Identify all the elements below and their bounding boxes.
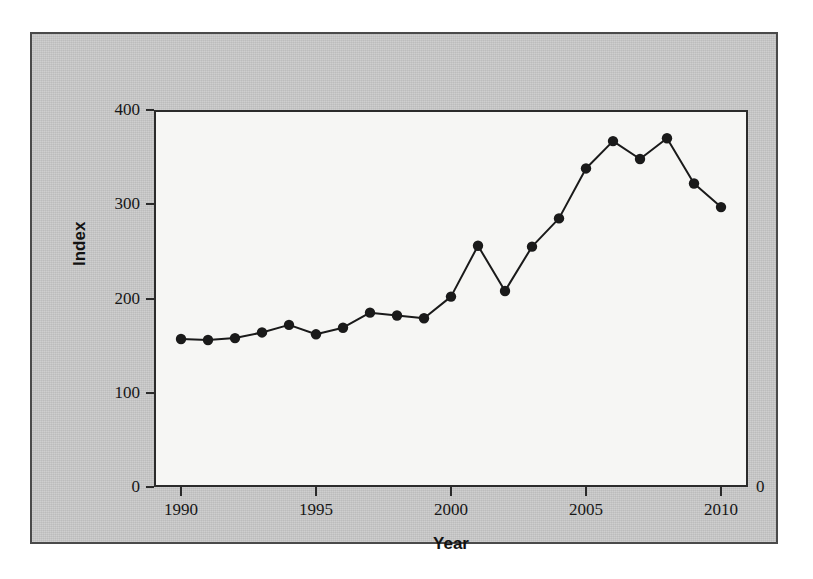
data-point-marker: 2009: 322 — [689, 178, 699, 188]
series-line — [181, 138, 721, 340]
x-tick-label: 1990 — [164, 500, 198, 520]
y-tick-label: 100 — [94, 383, 140, 403]
data-series-svg: 1990: 1571991: 1561992: 1581993: 1641994… — [156, 112, 746, 485]
x-tick-label: 2010 — [704, 500, 738, 520]
data-point-marker: 1990: 157 — [176, 334, 186, 344]
data-point-marker: 2006: 367 — [608, 136, 618, 146]
y-tick-label: 400 — [94, 100, 140, 120]
x-tick-label: 2005 — [569, 500, 603, 520]
data-point-marker: 1992: 158 — [230, 333, 240, 343]
data-point-marker: 2007: 348 — [635, 154, 645, 164]
y-tick-mark — [146, 203, 154, 205]
data-point-marker: 2000: 202 — [446, 291, 456, 301]
data-point-marker: 1997: 185 — [365, 307, 375, 317]
data-point-marker: 1998: 182 — [392, 310, 402, 320]
y-tick-mark — [146, 109, 154, 111]
x-tick-label: 1995 — [299, 500, 333, 520]
data-point-marker: 2003: 255 — [527, 241, 537, 251]
y-tick-mark — [146, 486, 154, 488]
y-tick-mark — [146, 298, 154, 300]
y-tick-mark — [146, 392, 154, 394]
x-tick-mark — [450, 487, 452, 496]
data-point-marker: 2008: 370 — [662, 133, 672, 143]
data-point-marker: 1994: 172 — [284, 320, 294, 330]
data-point-marker: 1995: 162 — [311, 329, 321, 339]
data-point-marker: 2002: 208 — [500, 286, 510, 296]
right-zero-label: 0 — [756, 477, 765, 497]
figure-canvas: Index 0100200300400 19901995200020052010… — [0, 0, 813, 579]
data-point-marker: 1999: 179 — [419, 313, 429, 323]
data-point-marker: 1996: 169 — [338, 323, 348, 333]
x-tick-label: 2000 — [434, 500, 468, 520]
y-tick-label: 200 — [94, 289, 140, 309]
x-tick-mark — [315, 487, 317, 496]
data-point-marker: 2001: 256 — [473, 241, 483, 251]
x-axis-title: Year — [154, 534, 748, 554]
x-tick-mark — [720, 487, 722, 496]
y-axis-title: Index — [70, 222, 90, 266]
x-tick-mark — [585, 487, 587, 496]
plot-area: 1990: 1571991: 1561992: 1581993: 1641994… — [154, 110, 748, 487]
data-point-marker: 2010: 297 — [716, 202, 726, 212]
data-point-marker: 2005: 338 — [581, 163, 591, 173]
x-tick-mark — [180, 487, 182, 496]
y-tick-label: 300 — [94, 194, 140, 214]
data-point-marker: 2004: 285 — [554, 213, 564, 223]
data-point-marker: 1991: 156 — [203, 335, 213, 345]
data-point-marker: 1993: 164 — [257, 327, 267, 337]
y-tick-label: 0 — [94, 477, 140, 497]
chart-panel: Index 0100200300400 19901995200020052010… — [30, 32, 778, 544]
